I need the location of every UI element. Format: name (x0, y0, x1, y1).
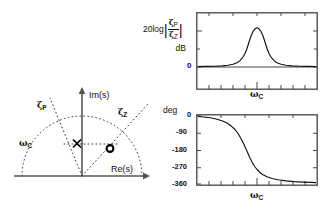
zeta-p-subscript: P (42, 104, 46, 111)
zeta-z-subscript: Z (123, 111, 127, 118)
phase-y-ticks-right (313, 133, 317, 168)
phase-ytick-minus90: -90 (176, 128, 187, 136)
magnitude-plot-frame (197, 13, 317, 89)
magnitude-curve (198, 28, 316, 67)
magnitude-x-ticks (209, 82, 305, 89)
phase-omega-symbol: ω (250, 190, 259, 200)
zeta-p-label: ζP (37, 101, 47, 112)
zeta-ratio-fraction: ζP ζZ (168, 18, 179, 40)
phase-plot-frame (197, 115, 317, 185)
magnitude-y-ticks (197, 31, 202, 67)
phase-ytick-minus180: -180 (172, 146, 187, 154)
phase-y-ticks (197, 116, 201, 184)
omega-symbol: ω (19, 138, 28, 148)
zeta-z-den-subscript: Z (174, 33, 178, 40)
phase-plot-svg (196, 114, 318, 186)
fraction-numerator: ζP (168, 18, 179, 29)
phase-omega-c-label: ωC (250, 191, 263, 202)
magnitude-ylabel: 20log | ζP ζZ | (143, 18, 183, 40)
phase-ytick-0: 0 (187, 111, 191, 119)
zeta-p-ray (50, 98, 82, 176)
bode-phase-plot (196, 114, 318, 186)
axis-real-label: Re(s) (111, 165, 133, 174)
magnitude-y-ticks-right (313, 31, 317, 67)
zero-o-marker (107, 145, 114, 152)
magnitude-plot-svg (196, 12, 318, 90)
omega-c-label-splane: ωC (19, 139, 32, 150)
figure-root: Im(s) Re(s) ζP ζZ ωC (0, 0, 325, 209)
phase-curve (198, 117, 316, 183)
phase-omega-subscript: C (259, 194, 264, 201)
abs-bar-right: | (179, 22, 183, 37)
magnitude-zero-tick-label: 0 (187, 62, 191, 70)
fraction-denominator: ζZ (168, 29, 179, 41)
pole-x-marker (74, 140, 81, 147)
phase-unit-label: deg (163, 106, 177, 115)
magnitude-omega-subscript: C (259, 93, 264, 100)
bode-magnitude-plot (196, 12, 318, 90)
magnitude-omega-c-label: ωC (250, 90, 263, 101)
magnitude-omega-symbol: ω (250, 89, 259, 99)
zeta-p-num-subscript: P (173, 21, 177, 28)
s-plane-pole-zero-plot: Im(s) Re(s) ζP ζZ ωC (0, 80, 175, 195)
twentylog-text: 20log (143, 25, 164, 34)
phase-ytick-minus360: -360 (172, 180, 187, 188)
phase-ytick-minus270: -270 (172, 163, 187, 171)
magnitude-unit-label: dB (143, 44, 195, 53)
omega-subscript: C (28, 142, 33, 149)
magnitude-ylabel-group: 20log | ζP ζZ | dB (143, 18, 195, 53)
axis-imag-label: Im(s) (89, 91, 110, 100)
imaginary-axis (79, 87, 86, 176)
zeta-z-label: ζZ (118, 108, 127, 119)
